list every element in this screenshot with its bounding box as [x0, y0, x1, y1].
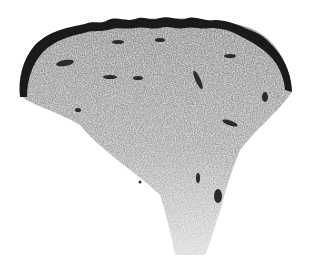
tissue-section	[0, 0, 315, 280]
histology-image	[0, 0, 315, 280]
